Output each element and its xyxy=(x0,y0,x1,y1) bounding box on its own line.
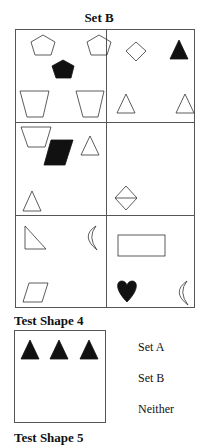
filled-triangle-icon xyxy=(170,40,188,59)
set-b-grid xyxy=(15,29,195,308)
outline-crescent-icon xyxy=(88,226,97,250)
outline-pentagon-icon xyxy=(87,35,111,55)
option-neither[interactable]: Neither xyxy=(138,402,174,417)
outline-trapezoid-icon xyxy=(76,91,104,117)
outline-triangle-icon xyxy=(117,94,135,113)
outline-triangle-icon xyxy=(81,136,99,155)
test-shape-title: Test Shape 4 xyxy=(14,313,84,329)
filled-triangle-icon xyxy=(50,340,68,359)
set-shapes xyxy=(16,30,196,309)
filled-pentagon-icon xyxy=(52,60,74,78)
set-title: Set B xyxy=(0,10,198,26)
outline-diamond-icon xyxy=(126,42,146,61)
option-set-b[interactable]: Set B xyxy=(138,371,164,386)
outline-triangle-icon xyxy=(176,94,194,113)
outline-trapezoid-icon xyxy=(20,91,49,117)
test-shape-box xyxy=(14,330,106,423)
outline-rectangle-icon xyxy=(118,235,165,256)
outline-parallelogram-icon xyxy=(23,283,48,302)
outline-crescent-icon xyxy=(179,281,188,305)
outline-pentagon-icon xyxy=(31,35,55,55)
outline-trapezoid-icon xyxy=(21,127,51,147)
test-shapes xyxy=(15,331,107,424)
filled-triangle-icon xyxy=(80,340,98,359)
outline-right-triangle-icon xyxy=(25,226,46,249)
filled-parallelogram-icon xyxy=(44,140,73,165)
next-test-shape-title: Test Shape 5 xyxy=(14,430,84,446)
outline-triangle-icon xyxy=(23,191,41,211)
option-set-a[interactable]: Set A xyxy=(138,340,164,355)
filled-triangle-icon xyxy=(21,340,39,359)
filled-heart-icon xyxy=(118,281,137,302)
